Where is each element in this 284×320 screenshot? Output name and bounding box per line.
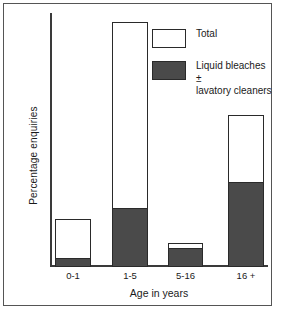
chart-legend: Total Liquid bleaches ± lavatory cleaner…: [150, 28, 272, 92]
y-axis-line: [50, 13, 52, 267]
x-tick-label-1-5: 1-5: [112, 270, 148, 281]
bar-bleach-5-16[interactable]: [168, 248, 203, 267]
chart-plot-area: Percentage enquiries Age in years 0-1 1-…: [0, 0, 284, 320]
legend-entry-total[interactable]: Total: [150, 28, 272, 48]
bar-bleach-1-5[interactable]: [112, 208, 148, 267]
legend-entry-bleach[interactable]: Liquid bleaches ± lavatory cleaners: [150, 60, 272, 80]
bar-bleach-0-1[interactable]: [55, 258, 91, 267]
dark-square-icon: [152, 61, 186, 80]
bar-bleach-16-plus[interactable]: [228, 182, 264, 267]
x-tick-label-5-16: 5-16: [168, 270, 203, 281]
legend-label-total: Total: [196, 28, 217, 41]
y-axis-title: Percentage enquiries: [28, 86, 39, 226]
x-tick-label-16-plus: 16 +: [228, 270, 264, 281]
legend-label-bleach: Liquid bleaches ± lavatory cleaners: [196, 60, 272, 98]
x-tick-label-0-1: 0-1: [55, 270, 91, 281]
white-square-icon: [152, 29, 186, 48]
x-axis-title: Age in years: [50, 287, 268, 299]
